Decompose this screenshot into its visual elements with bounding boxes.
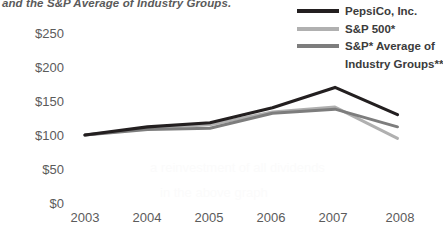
chart-plot-area (0, 0, 443, 237)
series-line-pepsico-inc (85, 87, 398, 135)
series-line-s-p-500 (85, 107, 398, 138)
stock-performance-chart: and the S&P Average of Industry Groups. … (0, 0, 443, 237)
series-line-s-p-average-of-industry-groups (85, 109, 398, 135)
